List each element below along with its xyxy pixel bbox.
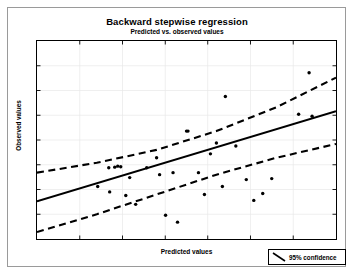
legend: 95% confidence [268, 249, 346, 265]
scatter-point [215, 141, 218, 144]
scatter-point [234, 144, 237, 147]
scatter-point [307, 71, 310, 74]
scatter-point [171, 171, 174, 174]
diagonal-line-icon [271, 251, 288, 263]
scatter-point [108, 190, 111, 193]
y-axis-label: Observed values [15, 71, 22, 181]
scatter-point [310, 115, 313, 118]
scatter-point [245, 178, 248, 181]
scatter-point [224, 95, 227, 98]
scatter-point [164, 214, 167, 217]
scatter-point [186, 129, 189, 132]
scatter-point [297, 113, 300, 116]
scatter-points [96, 71, 314, 224]
plot-area [36, 40, 337, 240]
scatter-point [134, 203, 137, 206]
chart-title: Backward stepwise regression [0, 16, 354, 27]
plot-canvas [37, 41, 336, 239]
scatter-point [261, 192, 264, 195]
scatter-point [176, 220, 179, 223]
chart-subtitle: Predicted vs. observed values [0, 28, 354, 35]
chart-screenshot: Backward stepwise regression Predicted v… [0, 0, 354, 275]
scatter-point [116, 164, 119, 167]
scatter-point [124, 194, 127, 197]
scatter-point [270, 177, 273, 180]
scatter-point [252, 199, 255, 202]
scatter-point [96, 185, 99, 188]
scatter-point [197, 171, 200, 174]
legend-label-confidence: 95% confidence [289, 254, 337, 261]
scatter-point [221, 185, 224, 188]
scatter-point [145, 166, 148, 169]
scatter-point [209, 152, 212, 155]
scatter-point [119, 165, 122, 168]
regression-line [37, 111, 336, 201]
scatter-point [158, 173, 161, 176]
scatter-point [203, 193, 206, 196]
scatter-point [107, 166, 110, 169]
scatter-point [128, 176, 131, 179]
scatter-point [155, 156, 158, 159]
scatter-point [113, 165, 116, 168]
